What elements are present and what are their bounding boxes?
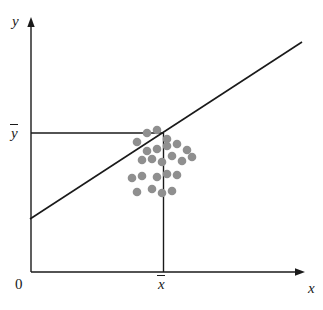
scatter-point [173, 140, 182, 149]
scatter-point [138, 172, 147, 181]
y-mean-label-text: y [10, 126, 19, 141]
scatter-point [168, 152, 177, 161]
scatter-point [158, 158, 167, 167]
scatter-point [133, 138, 142, 147]
scatter-point [143, 129, 152, 138]
mean-reference-lines [31, 133, 164, 272]
y-axis-arrowhead [27, 17, 34, 27]
scatter-point [133, 188, 142, 197]
scatter-point [173, 171, 182, 180]
x-mean-label: x [157, 277, 166, 292]
scatter-point [168, 187, 177, 196]
x-mean-label-text: x [157, 277, 166, 292]
scatter-point [148, 155, 157, 164]
scatter-point [163, 170, 172, 179]
x-axis-label: x [308, 281, 315, 296]
scatter-point [148, 185, 157, 194]
scatter-point [143, 147, 152, 156]
y-axis-label: y [12, 14, 19, 29]
scatter-point [158, 189, 167, 198]
scatter-point [153, 173, 162, 182]
x-axis-arrowhead [295, 268, 305, 275]
scatter-point [188, 153, 197, 162]
y-mean-label: y [10, 126, 19, 141]
scatter-points-group [128, 126, 197, 198]
scatter-point [178, 157, 187, 166]
scatter-point [183, 146, 192, 155]
origin-label: 0 [15, 277, 23, 292]
scatter-point [163, 142, 172, 151]
scatter-point [138, 156, 147, 165]
regression-scatter-figure: y x 0 y x [0, 0, 323, 310]
figure-canvas [0, 0, 323, 310]
scatter-point [153, 145, 162, 154]
scatter-point [128, 174, 137, 183]
scatter-point [153, 126, 162, 135]
